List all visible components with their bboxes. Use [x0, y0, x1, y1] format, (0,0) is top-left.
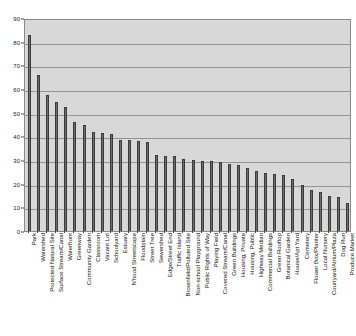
bar [73, 122, 76, 231]
bar [273, 174, 276, 231]
x-tick-mark [37, 231, 38, 233]
y-tick-label-50: 50 [13, 111, 20, 117]
x-tick-mark [246, 231, 247, 233]
x-tick-mark [46, 231, 47, 233]
x-tick-label: Housing, Private [240, 233, 246, 277]
x-tick-label: N'hood Streetscape [131, 233, 137, 286]
x-tick-mark [291, 231, 292, 233]
x-tick-label: Classroom [95, 233, 101, 262]
x-tick-label: Green Rooftop [276, 233, 282, 272]
x-tick-label: Botanical Garden [285, 233, 291, 279]
bar [101, 133, 104, 231]
x-tick-label: Highway Median [258, 233, 264, 277]
x-tick-mark [273, 231, 274, 233]
x-tick-mark [310, 231, 311, 233]
x-tick-mark [164, 231, 165, 233]
x-tick-label: Commercial Buildings [267, 233, 273, 291]
x-tick-label: Brownfield/Polluted Site [185, 233, 191, 296]
y-tick-label-40: 40 [13, 134, 20, 140]
bar [310, 190, 313, 231]
y-tick-label-20: 20 [13, 182, 20, 188]
x-tick-label: Surface Stream/Canal [58, 233, 64, 292]
bar [182, 159, 185, 231]
x-tick-mark [201, 231, 202, 233]
bar [219, 162, 222, 231]
x-tick-mark [328, 231, 329, 233]
x-tick-mark [228, 231, 229, 233]
x-tick-mark [319, 231, 320, 233]
bar [255, 171, 258, 231]
x-tick-mark [83, 231, 84, 233]
bar [55, 102, 58, 231]
bar [64, 107, 67, 231]
x-tick-mark [282, 231, 283, 233]
bar [210, 161, 213, 231]
x-tick-label: Cemetery [304, 233, 310, 259]
bar [110, 134, 113, 231]
bar [228, 164, 231, 231]
x-tick-mark [128, 231, 129, 233]
bar [92, 132, 95, 231]
x-tick-label: House/Apt Yard [294, 233, 300, 275]
x-tick-mark [110, 231, 111, 233]
y-tick-label-70: 70 [13, 63, 20, 69]
bar [301, 185, 304, 231]
bar [246, 168, 249, 231]
bar [282, 175, 285, 231]
bar [173, 156, 176, 231]
x-tick-label: Green Buildings [231, 233, 237, 276]
x-tick-label: Sewershed [158, 233, 164, 263]
y-tick-label-30: 30 [13, 158, 20, 164]
x-tick-label: Floodplain [140, 233, 146, 261]
bar [83, 125, 86, 232]
x-tick-label: Flower Box/Planter [313, 233, 319, 284]
x-tick-label: Housing, Public [249, 233, 255, 275]
bar [346, 203, 349, 231]
y-tick-label-80: 80 [13, 40, 20, 46]
x-tick-mark [210, 231, 211, 233]
x-tick-label: Covered Stream/Canal [222, 233, 228, 294]
x-tick-mark [237, 231, 238, 233]
x-tick-label: Non-school Playground [195, 233, 201, 295]
x-tick-label: Street Tree [149, 233, 155, 263]
x-tick-label: Local Nursery [322, 233, 328, 270]
bar [291, 179, 294, 231]
plot-area [24, 19, 351, 232]
bar [37, 75, 40, 231]
bar [337, 197, 340, 231]
x-tick-mark [92, 231, 93, 233]
x-tick-mark [155, 231, 156, 233]
bar [201, 161, 204, 231]
x-tick-label: Vacant Lot [104, 233, 110, 261]
y-tick-label-60: 60 [13, 87, 20, 93]
x-tick-mark [55, 231, 56, 233]
x-tick-mark [264, 231, 265, 233]
x-tick-label: Community Garden [86, 233, 92, 285]
bar [192, 160, 195, 231]
x-tick-label: Dog Run [340, 233, 346, 257]
x-tick-label: Greenway [76, 233, 82, 260]
x-tick-label: Schoolyard [113, 233, 119, 263]
x-tick-mark [346, 231, 347, 233]
x-tick-label: Watershed [40, 233, 46, 262]
x-tick-mark [28, 231, 29, 233]
x-axis-labels: ParkWatershedProtected Natural SiteSurfa… [24, 233, 351, 336]
bar [28, 35, 31, 231]
x-tick-label: Traffic Island [176, 233, 182, 267]
bar [119, 140, 122, 231]
x-tick-label: Edge/Street End [167, 233, 173, 277]
bar [319, 192, 322, 231]
bar [137, 141, 140, 231]
x-tick-mark [301, 231, 302, 233]
bar [237, 165, 240, 231]
bar [164, 156, 167, 231]
bar [155, 155, 158, 231]
x-tick-mark [337, 231, 338, 233]
x-tick-mark [101, 231, 102, 233]
y-tick-label-0: 0 [17, 229, 20, 235]
x-tick-mark [146, 231, 147, 233]
x-tick-label: Courtyard/Atrium/Plaza [331, 233, 337, 295]
x-tick-mark [173, 231, 174, 233]
x-tick-label: Public Rights of Way [204, 233, 210, 288]
y-axis: 0102030405060708090 [0, 19, 24, 232]
